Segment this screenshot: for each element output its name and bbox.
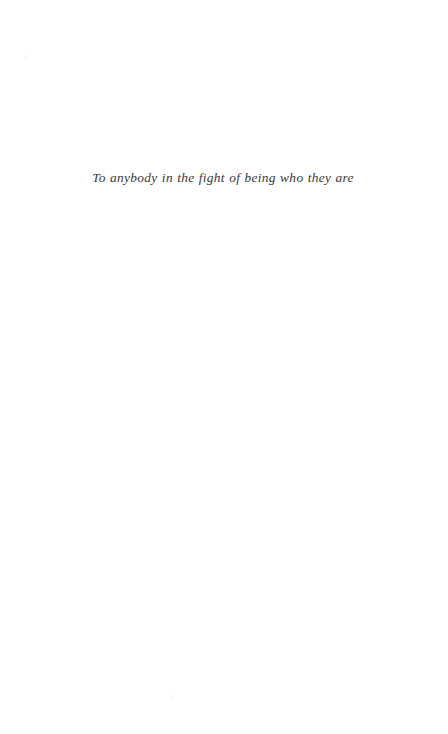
dedication-block: To anybody in the fight of being who the… xyxy=(0,168,448,188)
dedication-page: To anybody in the fight of being who the… xyxy=(0,0,448,734)
scan-artifact-bottom-center xyxy=(170,695,175,699)
dedication-text: To anybody in the fight of being who the… xyxy=(92,168,354,188)
scan-artifact-top-left xyxy=(24,55,29,60)
